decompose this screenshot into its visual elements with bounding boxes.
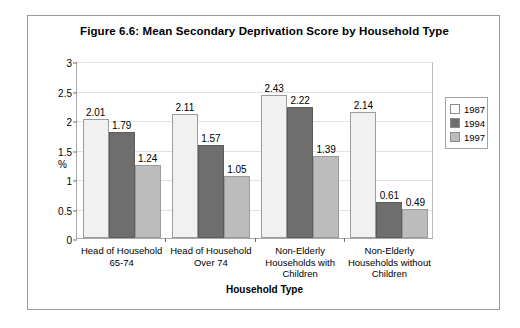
bar-1997[interactable] [224,176,250,238]
figure-container: Figure 6.6: Mean Secondary Deprivation S… [27,15,500,310]
bar-value-label: 2.43 [264,83,283,94]
bar-cluster: 2.432.221.39 [256,63,345,238]
bar-value-label: 2.11 [176,102,195,113]
bar-1994[interactable] [287,107,313,238]
bar-1987[interactable] [83,119,109,238]
x-axis-category-label: Head of HouseholdOver 74 [161,245,261,268]
legend-swatch-1997-icon [450,132,460,142]
y-axis-tick-label: 1.5 [58,146,72,157]
bar-value-label: 0.61 [380,190,399,201]
y-axis-tick-label: 0 [66,235,72,246]
legend-swatch-1987-icon [450,104,460,114]
bar-value-label: 0.49 [406,197,425,208]
y-axis-tick-label: 3 [66,58,72,69]
y-axis-tick-label: 0.5 [58,205,72,216]
x-axis-category-label: Head of Household65-74 [72,245,172,268]
legend-item[interactable]: 1994 [450,116,483,130]
x-axis-category-line: Households with [250,257,350,269]
x-axis-tick-mark [344,238,345,242]
bar-value-label: 1.24 [138,153,157,164]
bar-value-label: 1.05 [227,164,246,175]
bar-1997[interactable] [402,209,428,238]
bar-slot: 2.22 [287,63,313,238]
x-axis-category-line: 65-74 [72,257,172,269]
bar-group: 2.140.610.49Non-ElderlyHouseholds withou… [345,63,434,238]
x-axis-category-line: Households without [339,257,439,269]
y-axis-tick-label: 2 [66,117,72,128]
bar-1997[interactable] [135,165,161,238]
bar-slot: 0.49 [402,63,428,238]
chart-legend: 1987 1994 1997 [445,97,488,149]
bar-slot: 2.43 [261,63,287,238]
legend-label-1997: 1997 [464,132,485,143]
bar-1994[interactable] [376,202,402,238]
y-axis-tick-label: 1 [66,176,72,187]
legend-label-1994: 1994 [464,118,485,129]
bar-1987[interactable] [261,95,287,238]
bar-slot: 2.11 [172,63,198,238]
x-axis-category-line: Head of Household [72,245,172,257]
bar-group: 2.011.791.24Head of Household65-74 [77,63,166,238]
bar-slot: 1.57 [198,63,224,238]
x-axis-category-line: Head of Household [161,245,261,257]
bar-group: 2.111.571.05Head of HouseholdOver 74 [166,63,255,238]
bar-1997[interactable] [313,156,339,238]
bar-slot: 1.39 [313,63,339,238]
bar-value-label: 1.39 [316,144,335,155]
bar-slot: 2.14 [350,63,376,238]
bar-slot: 2.01 [83,63,109,238]
x-axis-category-line: Children [339,268,439,280]
legend-item[interactable]: 1997 [450,130,483,144]
x-axis-tick-mark [165,238,166,242]
x-axis-category-label: Non-ElderlyHouseholds withoutChildren [339,245,439,280]
bar-1987[interactable] [172,114,198,238]
bar-value-label: 2.01 [86,107,105,118]
x-axis-category-line: Over 74 [161,257,261,269]
bar-slot: 1.05 [224,63,250,238]
bar-value-label: 2.14 [354,100,373,111]
y-axis-title: % [58,159,67,170]
x-axis-category-line: Non-Elderly [339,245,439,257]
chart-title: Figure 6.6: Mean Secondary Deprivation S… [28,25,501,37]
x-axis-category-line: Non-Elderly [250,245,350,257]
legend-swatch-1994-icon [450,118,460,128]
bar-slot: 0.61 [376,63,402,238]
bar-1994[interactable] [198,145,224,238]
bar-value-label: 1.57 [201,133,220,144]
bar-slot: 1.79 [109,63,135,238]
y-axis-tick-label: 2.5 [58,87,72,98]
legend-item[interactable]: 1987 [450,102,483,116]
bar-cluster: 2.011.791.24 [77,63,166,238]
bar-cluster: 2.111.571.05 [166,63,255,238]
plot-area: 00.511.522.532.011.791.24Head of Househo… [76,62,433,239]
bar-value-label: 1.79 [112,120,131,131]
bar-cluster: 2.140.610.49 [345,63,434,238]
bar-1994[interactable] [109,132,135,238]
bar-group: 2.432.221.39Non-ElderlyHouseholds withCh… [256,63,345,238]
y-axis-tick-mark [73,240,77,241]
x-axis-tick-mark [255,238,256,242]
x-axis-title: Household Type [28,284,501,295]
bar-1987[interactable] [350,112,376,238]
bar-value-label: 2.22 [290,95,309,106]
legend-label-1987: 1987 [464,104,485,115]
bar-slot: 1.24 [135,63,161,238]
x-axis-category-line: Children [250,268,350,280]
x-axis-category-label: Non-ElderlyHouseholds withChildren [250,245,350,280]
